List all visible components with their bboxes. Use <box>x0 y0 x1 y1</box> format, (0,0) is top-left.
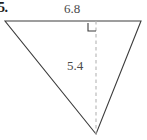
height-length-label: 5.4 <box>67 59 83 72</box>
base-length-label: 6.8 <box>64 2 80 15</box>
geometry-figure: 5. 6.8 5.4 <box>0 0 147 140</box>
triangle-outline <box>5 21 141 134</box>
problem-number: 5. <box>0 1 8 15</box>
